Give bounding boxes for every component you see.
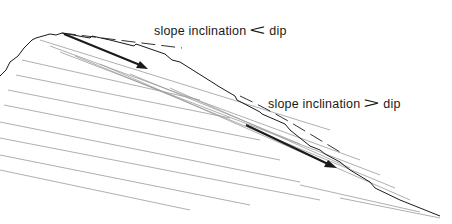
less-than-symbol: <	[250, 21, 266, 38]
label-text: slope inclination	[154, 24, 246, 38]
label-dip: dip	[383, 97, 400, 111]
label-slope-greater-than-dip: slope inclination>dip	[268, 94, 401, 111]
slope-profile	[0, 33, 440, 216]
label-dip: dip	[269, 24, 286, 38]
slope-diagram: slope inclination<dip slope inclination>…	[0, 0, 452, 224]
label-text: slope inclination	[268, 97, 360, 111]
bedding-planes	[0, 40, 440, 218]
label-slope-less-than-dip: slope inclination<dip	[154, 21, 287, 38]
greater-than-symbol: >	[364, 94, 380, 111]
